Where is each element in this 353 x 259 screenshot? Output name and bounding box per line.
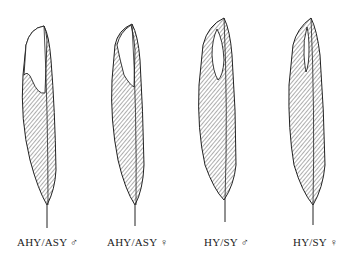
feather-hy-sy-male [199, 18, 236, 222]
label-hy-sy-female: HY/SY ♀ [293, 236, 338, 248]
feather-hy-sy-female [289, 18, 325, 225]
label-ahy-asy-female: AHY/ASY ♀ [107, 236, 168, 248]
feather-ahy-asy-male [22, 26, 56, 228]
feather-illustrations [0, 0, 353, 230]
label-ahy-asy-male: AHY/ASY ♂ [17, 236, 78, 248]
feather-ahy-asy-female [112, 24, 144, 226]
label-hy-sy-male: HY/SY ♂ [204, 236, 249, 248]
